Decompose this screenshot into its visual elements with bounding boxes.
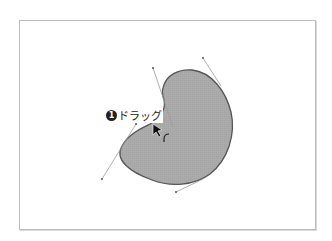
handle-point[interactable]	[101, 178, 103, 180]
step-label: 1 ドラッグ	[106, 107, 163, 123]
handle-point[interactable]	[202, 57, 204, 59]
handle-point[interactable]	[152, 67, 154, 69]
canvas	[0, 0, 332, 241]
handle-point[interactable]	[135, 123, 137, 125]
step-label-text: ドラッグ	[118, 107, 162, 123]
bean-shape[interactable]	[120, 70, 233, 184]
step-number-badge: 1	[106, 110, 117, 121]
handle-point[interactable]	[175, 191, 177, 193]
